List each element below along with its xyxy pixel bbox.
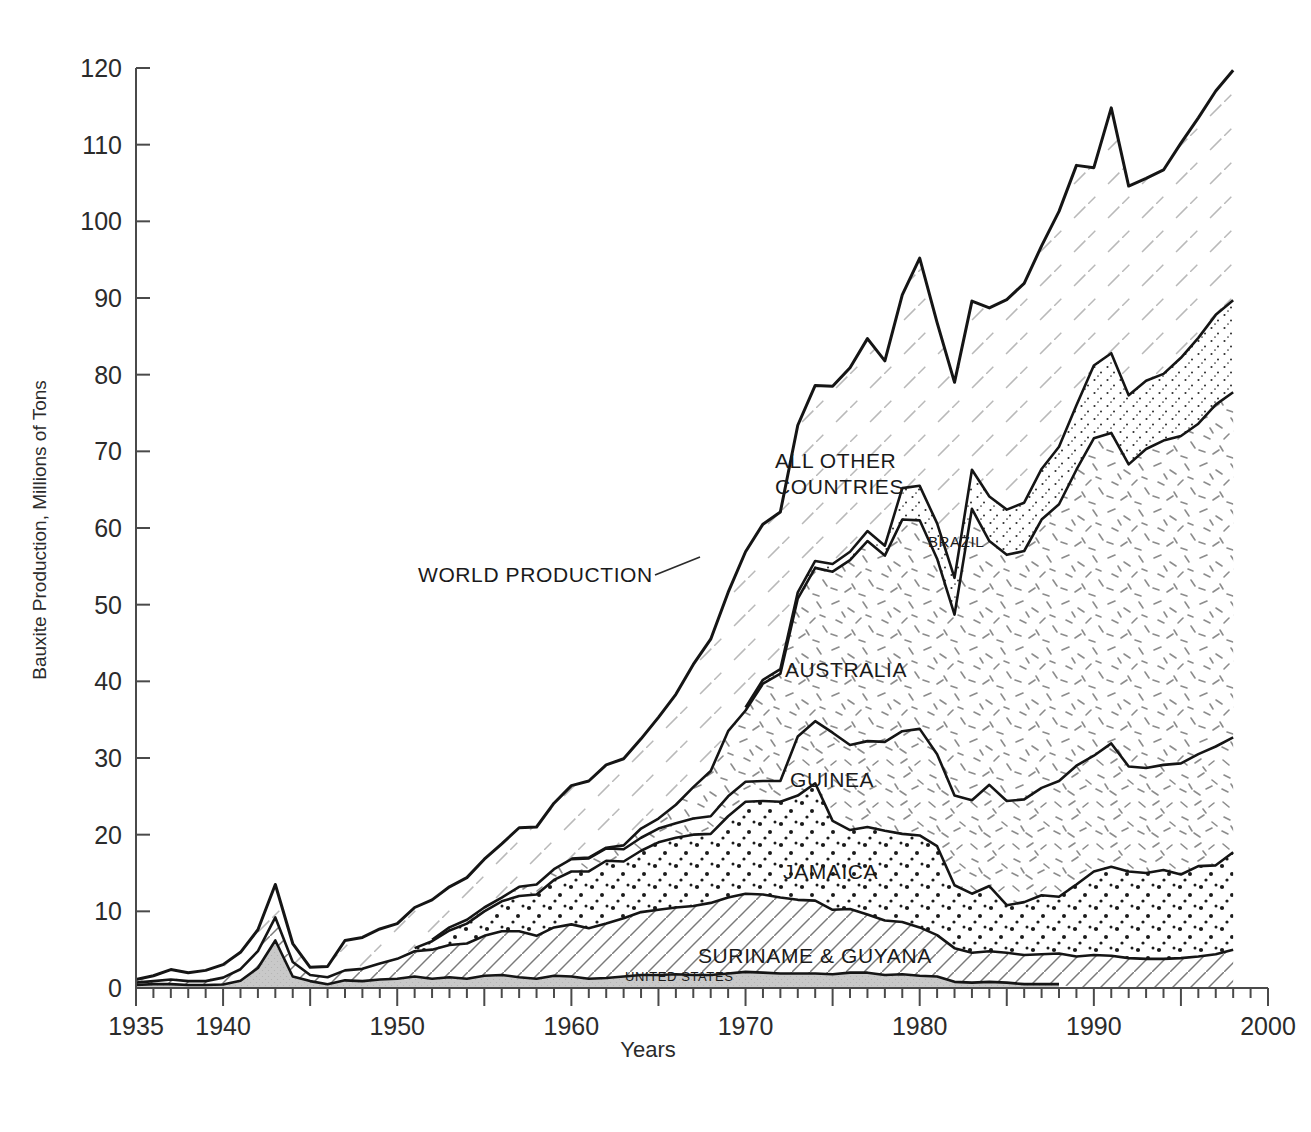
y-tick-label: 10 [94, 897, 122, 925]
y-tick-label: 80 [94, 361, 122, 389]
y-tick-label: 60 [94, 514, 122, 542]
brazil-label: BRAZIL [928, 533, 984, 550]
x-tick-label: 2000 [1240, 1012, 1296, 1040]
y-tick-label: 110 [82, 131, 122, 159]
y-tick-label: 20 [94, 821, 122, 849]
guinea-label: GUINEA [790, 768, 874, 791]
y-tick-label: 40 [94, 667, 122, 695]
chart-canvas: 0102030405060708090100110120 19351940195… [0, 0, 1311, 1132]
x-tick-label: 1970 [718, 1012, 774, 1040]
australia-label: AUSTRALIA [785, 658, 907, 681]
x-tick-label: 1950 [369, 1012, 425, 1040]
y-tick-label: 0 [108, 974, 122, 1002]
all-other-countries-label-line2: COUNTRIES [775, 475, 904, 498]
y-tick-label: 70 [94, 437, 122, 465]
y-tick-label: 120 [80, 54, 122, 82]
bauxite-production-stacked-area-chart: 0102030405060708090100110120 19351940195… [0, 0, 1311, 1132]
x-tick-label: 1980 [892, 1012, 948, 1040]
y-tick-label: 90 [94, 284, 122, 312]
jamaica-label: JAMAICA [783, 860, 878, 883]
x-tick-label: 1960 [544, 1012, 600, 1040]
united-states-label: UNITED STATES [625, 969, 733, 984]
all-other-countries-label-line1: ALL OTHER [775, 449, 896, 472]
y-tick-label: 50 [94, 591, 122, 619]
y-tick-label: 100 [80, 207, 122, 235]
x-tick-label: 1940 [195, 1012, 251, 1040]
suriname-guyana-label: SURINAME & GUYANA [698, 944, 932, 967]
x-tick-label: 1990 [1066, 1012, 1122, 1040]
x-axis-title: Years [620, 1037, 675, 1062]
x-tick-label: 1935 [108, 1012, 164, 1040]
y-axis-title: Bauxite Production, Millions of Tons [29, 380, 50, 680]
y-tick-label: 30 [94, 744, 122, 772]
world-production-label: WORLD PRODUCTION [418, 563, 653, 586]
